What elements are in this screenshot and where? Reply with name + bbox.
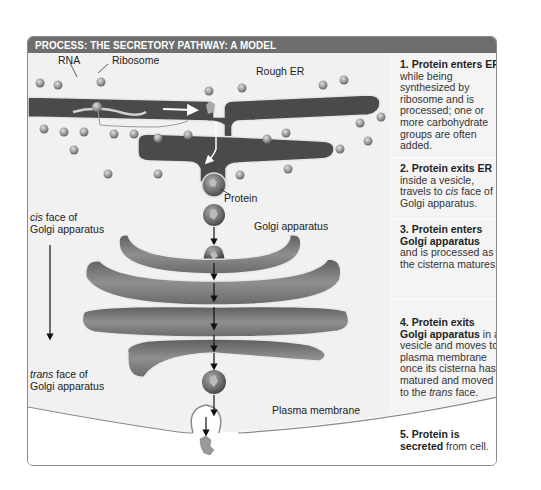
process-title: PROCESS: THE SECRETORY PATHWAY: A MODEL (35, 37, 276, 53)
label-trans-rest: face of (53, 368, 87, 380)
label-trans-word: trans (30, 368, 53, 380)
label-ribosome: Ribosome (112, 54, 159, 66)
label-cis-face: cis face of Golgi apparatus (30, 211, 104, 235)
step-3-heading: 3. Protein enters Golgi apparatus (400, 223, 482, 247)
step-5-text: from cell. (443, 440, 489, 452)
step-4-text-b: face. (453, 386, 479, 398)
label-protein: Protein (224, 192, 257, 204)
label-plasma-membrane: Plasma membrane (272, 404, 360, 416)
label-trans-face: trans face of Golgi apparatus (30, 368, 104, 392)
step-4-heading: 4. Protein exits Golgi apparatus (400, 316, 480, 340)
diagram-frame: PROCESS: THE SECRETORY PATHWAY: A MODEL … (27, 36, 497, 466)
label-cis-word: cis (30, 211, 43, 223)
step-1: 1. Protein enters ER while being synthes… (400, 59, 497, 152)
label-cis-rest: face of (43, 211, 77, 223)
label-rna: RNA (58, 54, 80, 66)
label-cis-golgi: Golgi apparatus (30, 223, 104, 235)
process-header: PROCESS: THE SECRETORY PATHWAY: A MODEL (28, 37, 496, 53)
step-2: 2. Protein exits ER inside a vesicle, tr… (400, 163, 497, 209)
step-1-text: while being synthesized by ribosome and … (400, 70, 488, 152)
step-2-heading: 2. Protein exits ER (400, 162, 492, 174)
step-1-heading: 1. Protein enters ER (400, 58, 497, 70)
step-4-italic: trans (429, 386, 452, 398)
label-trans-golgi: Golgi apparatus (30, 380, 104, 392)
step-3-text: and is processed as the cisterna matures… (400, 246, 497, 270)
label-golgi-apparatus: Golgi apparatus (254, 220, 328, 232)
step-2-italic: cis (446, 185, 459, 197)
step-4: 4. Protein exits Golgi apparatus in a ve… (400, 317, 497, 398)
step-3: 3. Protein enters Golgi apparatus and is… (400, 224, 497, 270)
label-rough-er: Rough ER (256, 65, 304, 77)
step-5: 5. Protein is secreted from cell. (400, 429, 497, 452)
